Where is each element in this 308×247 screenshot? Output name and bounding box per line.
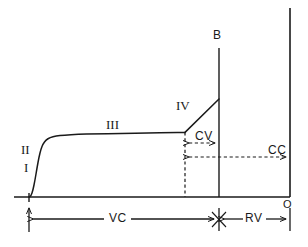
spirometry-diagram bbox=[0, 0, 308, 247]
washout-curve bbox=[29, 132, 185, 197]
closing-capacity-label: CC bbox=[268, 144, 286, 156]
phase-one-label: I bbox=[24, 161, 28, 174]
phase-two-label: II bbox=[21, 143, 30, 156]
phase-four-label: IV bbox=[176, 99, 190, 112]
phase-three-label: III bbox=[106, 118, 119, 131]
phase-four-segment bbox=[185, 99, 219, 132]
point-b-label: B bbox=[213, 29, 222, 41]
closing-volume-label: CV bbox=[195, 130, 213, 142]
washout-curve-group bbox=[29, 99, 219, 197]
residual-volume-label: RV bbox=[245, 212, 262, 224]
axis-group bbox=[14, 8, 290, 202]
vital-capacity-label: VC bbox=[109, 212, 127, 224]
figure-canvas: I II III IV B O CV CC VC RV bbox=[0, 0, 308, 247]
point-o-label: O bbox=[283, 199, 292, 210]
